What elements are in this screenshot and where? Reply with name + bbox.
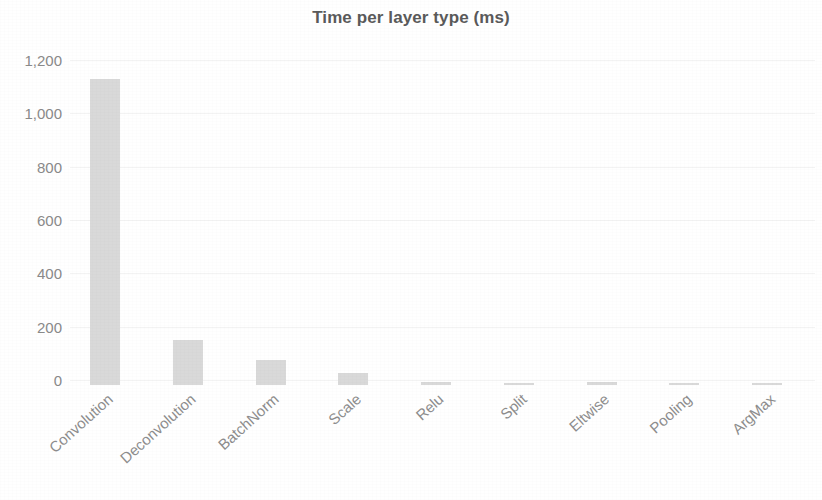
chart-title: Time per layer type (ms) [0,8,822,28]
x-axis-tick-label-eltwise: Eltwise [566,391,611,434]
bar-scale[interactable] [338,373,368,385]
y-axis-tick-label: 0 [0,373,62,388]
x-axis-tick-label-argmax: ArgMax [729,391,777,437]
bar-chart: Time per layer type (ms) 02004006008001,… [0,0,822,500]
x-axis-tick-label-split: Split [497,391,529,422]
bar-batchnorm[interactable] [256,360,286,385]
bars-layer [70,60,815,385]
bar-deconvolution[interactable] [173,340,203,385]
x-axis-tick-label-deconvolution: Deconvolution [117,391,198,466]
x-axis-tick-label-scale: Scale [325,391,363,427]
x-axis-tick-label-batchnorm: BatchNorm [215,391,281,452]
y-axis: 02004006008001,0001,200 [0,60,62,390]
y-axis-tick-label: 600 [0,213,62,228]
x-axis-tick-label-pooling: Pooling [647,391,694,436]
y-axis-tick-label: 400 [0,266,62,281]
y-axis-tick-label: 1,000 [0,106,62,121]
x-axis-tick-label-convolution: Convolution [46,391,115,455]
bar-convolution[interactable] [90,79,120,385]
x-axis-tick-label-relu: Relu [413,391,446,423]
y-axis-tick-label: 200 [0,320,62,335]
x-axis: ConvolutionDeconvolutionBatchNormScaleRe… [70,385,815,500]
y-axis-tick-label: 800 [0,160,62,175]
y-axis-tick-label: 1,200 [0,53,62,68]
